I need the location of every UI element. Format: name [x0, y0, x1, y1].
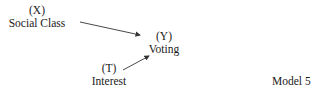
- node-interest: (T) Interest: [84, 62, 134, 88]
- node-var-x: (X): [2, 4, 72, 17]
- model-caption: Model 5: [272, 75, 311, 87]
- node-voting: (Y) Voting: [144, 30, 184, 56]
- node-label-voting: Voting: [144, 43, 184, 56]
- node-var-t: (T): [84, 62, 134, 75]
- node-label-social-class: Social Class: [2, 17, 72, 30]
- node-label-interest: Interest: [84, 75, 134, 88]
- edge-x-to-y: [80, 22, 140, 35]
- node-social-class: (X) Social Class: [2, 4, 72, 30]
- node-var-y: (Y): [144, 30, 184, 43]
